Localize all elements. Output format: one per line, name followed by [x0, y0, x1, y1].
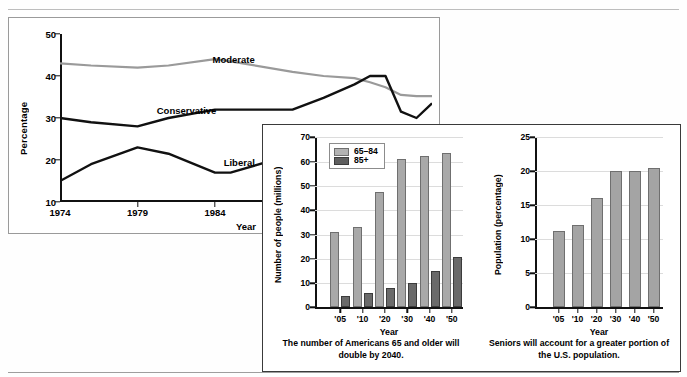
- bar-y10-85: [364, 293, 373, 307]
- bar-y40-6584: [420, 156, 429, 307]
- bar-x-tickmark: [406, 309, 407, 313]
- bar-y10-percentageofuspopulationage65: [572, 225, 584, 307]
- bar-left-legend: 65–84 85+: [329, 143, 385, 169]
- bar-y-tick: 50: [300, 181, 310, 191]
- legend-item-85-plus: 85+: [334, 156, 378, 165]
- bar-y-tickmark: [310, 282, 315, 283]
- bar-y-tickmark: [310, 161, 315, 162]
- bar-y-tick: 70: [300, 132, 310, 142]
- bar-chart-right-block: Population (percentage) Year 0510152025'…: [481, 131, 677, 367]
- bar-x-tickmark: [384, 309, 385, 313]
- bar-gridline: [315, 186, 463, 187]
- bar-y30-85: [408, 283, 417, 307]
- bar-left-x-axis-label: Year: [315, 327, 463, 337]
- page-canvas: Percentage Year 504030201019741979198419…: [0, 0, 687, 377]
- bar-x-tickmark: [451, 309, 452, 313]
- bar-y-tick: 20: [300, 254, 310, 264]
- bar-y40-85: [431, 271, 440, 307]
- bar-y-tickmark: [530, 137, 535, 138]
- bar-y-tickmark: [310, 210, 315, 211]
- bar-x-tick: '40: [424, 314, 436, 324]
- line-chart-x-tick: 1984: [204, 207, 225, 218]
- legend-swatch-65-84: [334, 148, 349, 156]
- bar-y-tickmark: [310, 185, 315, 186]
- bar-y-tickmark: [530, 205, 535, 206]
- bar-x-tick: '50: [648, 314, 660, 324]
- bar-y50-6584: [442, 153, 451, 307]
- bar-left-x-axis: [315, 307, 463, 309]
- bar-y-tickmark: [530, 273, 535, 274]
- bar-x-tick: '10: [572, 314, 584, 324]
- bar-x-tick: '10: [357, 314, 369, 324]
- line-series-label-liberal: Liberal: [224, 157, 255, 168]
- bar-x-tick: '30: [401, 314, 413, 324]
- bar-right-caption: Seniors will account for a greater porti…: [481, 338, 677, 361]
- bar-x-tick: '20: [591, 314, 603, 324]
- line-series-label-moderate: Moderate: [213, 54, 255, 65]
- bar-x-tickmark: [339, 309, 340, 313]
- bar-x-tickmark: [634, 309, 635, 313]
- bar-x-tickmark: [615, 309, 616, 313]
- bar-x-tick: '20: [379, 314, 391, 324]
- line-chart-x-tick: 1974: [49, 207, 70, 218]
- line-chart-y-axis-label: Percentage: [16, 73, 30, 183]
- bar-chart-left-block: Number of people (millions) 65–84 85+ Ye…: [267, 131, 475, 367]
- bar-y-tickmark: [310, 234, 315, 235]
- bar-right-y-axis-label: Population (percentage): [491, 139, 505, 311]
- line-chart-x-tickmark: [214, 202, 215, 207]
- bar-y-tick: 10: [300, 278, 310, 288]
- bar-y40-percentageofuspopulationage65: [629, 171, 641, 307]
- bar-y05-6584: [330, 232, 339, 308]
- bar-x-tick: '30: [610, 314, 622, 324]
- bar-right-y-axis: [535, 137, 537, 309]
- bar-y-tick: 20: [520, 166, 530, 176]
- bar-y-tickmark: [310, 258, 315, 259]
- bar-y-tickmark: [530, 307, 535, 308]
- line-chart-x-tickmark: [137, 202, 138, 207]
- bar-left-plot-area: 65–84 85+ Year 010203040506070'05'10'20'…: [315, 137, 463, 309]
- line-chart-y-tickmark: [55, 201, 60, 202]
- bar-x-tick: '50: [446, 314, 458, 324]
- bar-right-x-axis-label: Year: [535, 327, 663, 337]
- bar-y30-percentageofuspopulationage65: [610, 171, 622, 307]
- line-chart-x-tick: 1979: [127, 207, 148, 218]
- bar-y20-6584: [375, 192, 384, 307]
- line-chart-y-tickmark: [55, 33, 60, 34]
- bar-y-tickmark: [310, 307, 315, 308]
- footer-rule: [8, 372, 679, 373]
- bar-y50-percentageofuspopulationage65: [648, 168, 660, 307]
- header-rule: [8, 9, 679, 10]
- bar-y05-85: [341, 296, 350, 308]
- bar-x-tickmark: [653, 309, 654, 313]
- bar-y-tickmark: [310, 137, 315, 138]
- bar-x-tick: '05: [553, 314, 565, 324]
- bar-gridline: [315, 210, 463, 211]
- bar-y10-6584: [353, 227, 362, 307]
- bar-gridline: [535, 171, 663, 172]
- bar-left-y-axis-label: Number of people (millions): [271, 139, 285, 311]
- line-chart-y-tickmark: [55, 159, 60, 160]
- bar-y20-85: [386, 288, 395, 308]
- line-chart-y-tickmark: [55, 117, 60, 118]
- line-series-label-conservative: Conservative: [157, 105, 217, 116]
- bar-x-tick: '05: [334, 314, 346, 324]
- inset-bar-charts-panel: Number of people (millions) 65–84 85+ Ye…: [262, 124, 681, 372]
- bar-y-tickmark: [530, 171, 535, 172]
- line-chart-y-tickmark: [55, 75, 60, 76]
- bar-y-tick: 25: [520, 132, 530, 142]
- bar-y05-percentageofuspopulationage65: [553, 231, 565, 307]
- bar-x-tickmark: [558, 309, 559, 313]
- legend-swatch-85-plus: [334, 157, 349, 165]
- bar-y-tick: 15: [520, 200, 530, 210]
- bar-y-tick: 10: [520, 234, 530, 244]
- bar-y-tickmark: [530, 239, 535, 240]
- bar-x-tickmark: [362, 309, 363, 313]
- bar-y50-85: [453, 257, 462, 307]
- bar-x-tickmark: [596, 309, 597, 313]
- bar-x-tick: '40: [629, 314, 641, 324]
- bar-left-caption: The number of Americans 65 and older wil…: [267, 338, 475, 361]
- bar-y20-percentageofuspopulationage65: [591, 198, 603, 307]
- legend-label-85-plus: 85+: [354, 156, 369, 165]
- bar-y30-6584: [397, 159, 406, 307]
- bar-right-plot-area: Year 0510152025'05'10'20'30'40'50: [535, 137, 663, 309]
